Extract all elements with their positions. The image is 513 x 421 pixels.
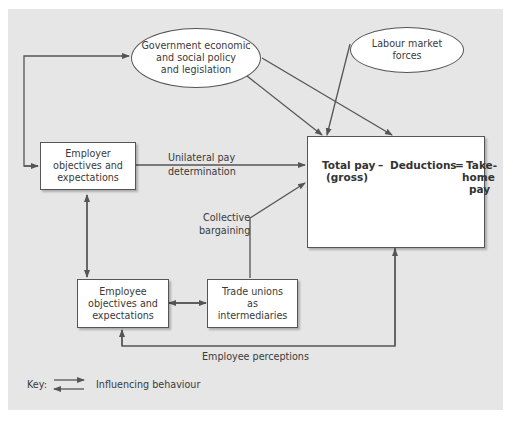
collective-label-1: Collective: [203, 212, 250, 224]
trade-unions-node: Trade unionsasintermediaries: [207, 279, 298, 328]
total-pay-label: Total pay: [322, 159, 375, 171]
employer-node: Employerobjectives andexpectations: [40, 142, 136, 190]
labour-market-node: Labour marketforces: [350, 27, 464, 73]
minus-sign: –: [378, 159, 383, 171]
unilateral-label-1: Unilateral pay: [168, 152, 235, 164]
take-label: Take-: [466, 159, 497, 171]
equals-sign: =: [455, 159, 464, 171]
key-description: Influencing behaviour: [96, 379, 200, 391]
take-home-pay-node: Total pay – Deductions = Take- (gross) h…: [307, 136, 485, 248]
key-label: Key:: [27, 379, 47, 391]
employee-node: Employeeobjectives andexpectations: [77, 279, 169, 328]
government-node: Government economicand social policyand …: [131, 28, 261, 88]
gross-label: (gross): [326, 171, 368, 183]
perceptions-label: Employee perceptions: [202, 351, 309, 363]
pay-label: pay: [469, 183, 490, 195]
unilateral-label-2: determination: [168, 166, 236, 178]
home-label: home: [462, 171, 495, 183]
collective-label-2: bargaining: [199, 225, 250, 237]
deductions-label: Deductions: [390, 159, 457, 171]
